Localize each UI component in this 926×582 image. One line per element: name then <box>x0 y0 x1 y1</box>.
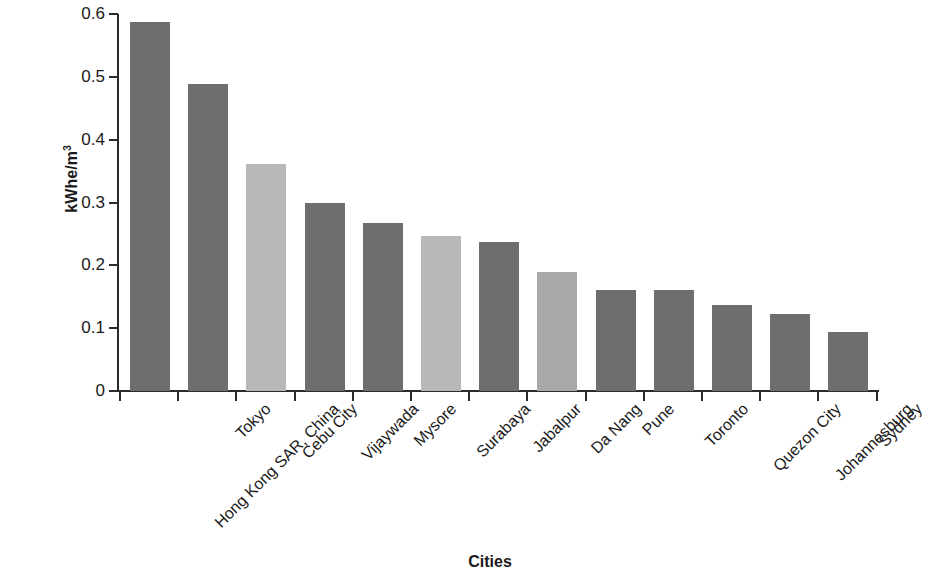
x-axis-tick <box>352 392 354 401</box>
bar <box>305 203 345 391</box>
x-axis-tick <box>526 392 528 401</box>
x-axis-title-text: Cities <box>468 553 512 571</box>
y-axis-tick-label: 0.1 <box>49 319 105 336</box>
x-axis-category-label: Pune <box>639 400 677 438</box>
y-axis-tick-label-text: 0.6 <box>57 5 105 22</box>
x-axis-tick <box>817 392 819 401</box>
y-axis-tick-label-text: 0.2 <box>57 256 105 273</box>
bar <box>363 223 403 391</box>
x-axis-tick <box>585 392 587 401</box>
x-axis-category-label: Vijaywada <box>358 400 421 463</box>
y-axis-tick-label-text: 0.4 <box>57 131 105 148</box>
bar <box>828 332 868 391</box>
bar <box>188 84 228 391</box>
x-axis-tick <box>759 392 761 401</box>
y-axis-tick-label: 0.5 <box>49 68 105 85</box>
bar <box>537 272 577 391</box>
bar <box>596 290 636 391</box>
bar <box>421 236 461 391</box>
bar <box>130 22 170 391</box>
bar <box>654 290 694 391</box>
y-axis-tick-label-text: 0 <box>57 382 105 399</box>
x-axis-tick <box>294 392 296 401</box>
bar <box>770 314 810 391</box>
x-axis-tick <box>643 392 645 401</box>
bar <box>712 305 752 391</box>
y-axis-tick <box>109 327 118 329</box>
x-axis-tick <box>119 392 121 401</box>
x-axis-category-label: Surabaya <box>473 400 533 460</box>
x-axis-category-label: Tokyo <box>232 400 274 442</box>
y-axis-tick-label-text: 0.1 <box>57 319 105 336</box>
bar <box>479 242 519 391</box>
x-axis-category-label: Quezon City <box>770 400 844 474</box>
x-axis-tick <box>876 392 878 401</box>
y-axis-tick <box>109 264 118 266</box>
x-axis-tick <box>468 392 470 401</box>
x-axis-category-label: Hong Kong SAR, China <box>211 400 342 531</box>
y-axis-tick-label: 0.6 <box>49 5 105 22</box>
x-axis-title: Cities <box>0 553 888 571</box>
y-axis-tick-label-text: 0.5 <box>57 68 105 85</box>
y-axis-tick-label-text: 0.3 <box>57 194 105 211</box>
y-axis-tick-label: 0 <box>49 382 105 399</box>
y-axis-tick-label: 0.4 <box>49 131 105 148</box>
y-axis-tick <box>109 202 118 204</box>
y-axis-tick-label: 0.2 <box>49 256 105 273</box>
y-axis-tick <box>109 390 118 392</box>
x-axis-tick <box>235 392 237 401</box>
x-axis-tick <box>177 392 179 401</box>
x-axis-tick <box>701 392 703 401</box>
y-axis-tick-label: 0.3 <box>49 194 105 211</box>
x-axis-category-label: Jabalpur <box>529 400 584 455</box>
y-axis-tick <box>109 76 118 78</box>
bar <box>246 164 286 391</box>
y-axis-title: kWhe/m3 <box>63 99 81 259</box>
y-axis-tick <box>109 13 118 15</box>
y-axis-tick <box>109 139 118 141</box>
x-axis-category-label: Da Nang <box>588 400 645 457</box>
x-axis-category-label: Toronto <box>701 400 751 450</box>
